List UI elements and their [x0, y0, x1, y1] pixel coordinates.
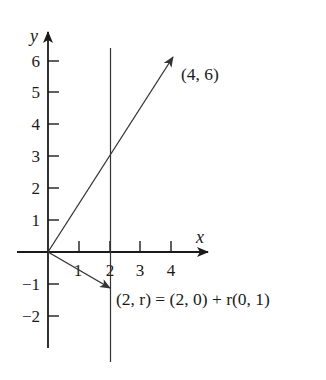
y-tick-label-2: 2 — [32, 179, 41, 198]
y-axis-label: y — [28, 26, 38, 46]
x-ticks — [79, 241, 171, 252]
point-label-4-6: (4, 6) — [181, 64, 219, 84]
y-tick-label-3: 3 — [32, 147, 41, 166]
diagram-canvas: 1 2 3 4 1 2 3 4 5 6 −1 −2 x y (4, 6) (2,… — [0, 0, 326, 380]
x-axis-label: x — [195, 227, 204, 247]
y-tick-label-1: 1 — [32, 211, 41, 230]
x-tick-label-3: 3 — [136, 261, 145, 280]
vector-2-neg1 — [48, 252, 110, 288]
y-tick-label-6: 6 — [32, 52, 41, 71]
y-tick-label-5: 5 — [32, 83, 41, 102]
line-equation-label: (2, r) = (2, 0) + r(0, 1) — [116, 289, 270, 309]
x-tick-label-4: 4 — [167, 261, 176, 280]
y-tick-label-4: 4 — [32, 115, 41, 134]
y-ticks — [48, 61, 59, 316]
y-tick-label-neg2: −2 — [22, 307, 40, 326]
y-tick-label-neg1: −1 — [22, 275, 40, 294]
